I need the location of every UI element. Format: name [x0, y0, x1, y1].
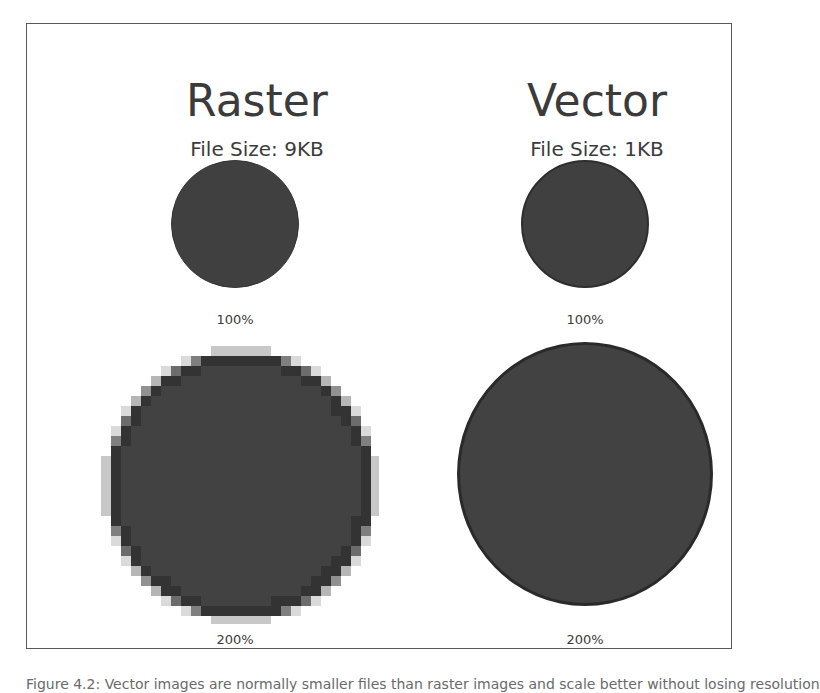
vector-circle-200 [457, 342, 713, 606]
raster-title: Raster [107, 79, 407, 123]
vector-scale-100-label: 100% [535, 313, 635, 326]
raster-file-size: File Size: 9KB [107, 139, 407, 159]
vector-circle-100 [521, 160, 649, 288]
figure-frame: Raster File Size: 9KB 100% 200% Vector F… [26, 23, 732, 649]
raster-scale-100-label: 100% [185, 313, 285, 326]
figure-caption: Figure 4.2: Vector images are normally s… [26, 676, 820, 692]
vector-title: Vector [447, 79, 747, 123]
raster-circle-100 [171, 160, 299, 288]
vector-file-size: File Size: 1KB [447, 139, 747, 159]
vector-scale-200-label: 200% [535, 633, 635, 646]
raster-circle-200 [101, 346, 379, 624]
raster-scale-200-label: 200% [185, 633, 285, 646]
